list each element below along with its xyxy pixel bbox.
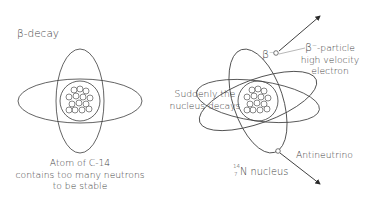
nucleon [83, 88, 89, 94]
c14-caption-line2: contains too many neutrons [15, 169, 144, 181]
nucleon [258, 94, 264, 100]
nucleon [77, 86, 83, 92]
nucleon [66, 94, 72, 100]
beta-particle-description: β−-particle high velocity electron [301, 39, 360, 77]
nucleon [79, 107, 85, 113]
antineutrino-particle [276, 149, 281, 154]
nucleon [249, 87, 255, 93]
beta-desc-line1: β−-particle [301, 39, 360, 54]
nucleon [76, 100, 82, 106]
nucleon [250, 107, 256, 113]
title-text: β-decay [17, 27, 59, 39]
transition-label: Suddenly the nucleus decays [170, 88, 241, 111]
atomic-number: 7 [234, 171, 238, 177]
transition-label-line2: nucleus decays [170, 100, 241, 112]
nucleon [66, 107, 72, 113]
nucleon [251, 93, 257, 99]
nucleus-word: nucleus [247, 166, 288, 177]
beta-desc-rest: -particle [317, 42, 355, 53]
nucleon [257, 107, 263, 113]
c14-caption-line1: Atom of C-14 [15, 157, 144, 169]
antineutrino-text: Antineutrino [296, 149, 353, 160]
nucleon [71, 87, 77, 93]
isotope-notation: 147 [233, 165, 240, 177]
n14-nucleus-label: 147N nucleus [233, 165, 288, 178]
c14-caption-line3: to be stable [15, 180, 144, 192]
nucleons [244, 86, 271, 113]
nucleon [264, 106, 270, 112]
nucleon [72, 107, 78, 113]
beta-charge: − [269, 48, 274, 55]
c14-caption: Atom of C-14 contains too many neutrons … [15, 157, 144, 192]
transition-label-line1: Suddenly the [170, 88, 241, 100]
nucleon [255, 86, 261, 92]
nucleon [254, 100, 260, 106]
antineutrino-label: Antineutrino [296, 149, 353, 161]
nucleon [244, 94, 250, 100]
diagram-title: β-decay [17, 28, 59, 40]
nucleon [86, 106, 92, 112]
nucleon [261, 88, 267, 94]
beta-symbol: β [262, 48, 269, 61]
beta-desc-line3: electron [301, 65, 360, 77]
nucleon [244, 107, 250, 113]
nucleon [73, 93, 79, 99]
beta-desc-line2: high velocity [301, 54, 360, 66]
beta-particle [274, 51, 279, 56]
beta-symbol-label: β− [262, 46, 274, 61]
c14-atom [18, 49, 142, 153]
nucleon [247, 101, 253, 107]
nucleon [69, 101, 75, 107]
nucleon [80, 94, 86, 100]
nucleon [265, 95, 271, 101]
nucleon [87, 95, 93, 101]
mass-number: 14 [233, 163, 240, 169]
nucleons [66, 86, 93, 113]
